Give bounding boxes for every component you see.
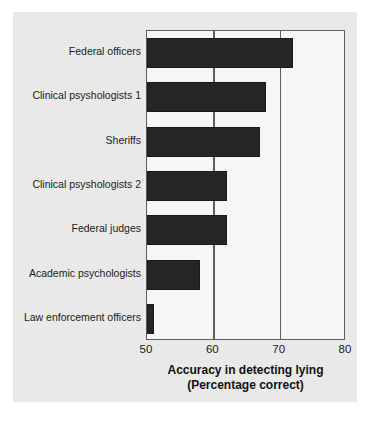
category-axis-labels: Federal officersClinical psyshologists 1… bbox=[13, 30, 141, 340]
bar bbox=[147, 171, 227, 201]
category-label: Federal officers bbox=[13, 46, 141, 57]
plot-area bbox=[146, 30, 345, 340]
bar bbox=[147, 260, 200, 290]
category-label: Clinical psyshologists 2 bbox=[13, 179, 141, 190]
category-label: Sheriffs bbox=[13, 135, 141, 146]
bar bbox=[147, 215, 227, 245]
x-tick-label: 60 bbox=[206, 343, 219, 355]
x-tick-label: 50 bbox=[140, 343, 153, 355]
x-axis-title: Accuracy in detecting lying (Percentage … bbox=[146, 363, 345, 393]
x-tick-label: 70 bbox=[272, 343, 285, 355]
bar bbox=[147, 82, 266, 112]
category-label: Academic psychologists bbox=[13, 268, 141, 279]
x-axis-tick-labels: 50607080 bbox=[146, 343, 345, 359]
x-axis-title-line1: Accuracy in detecting lying bbox=[146, 363, 345, 378]
x-tick-label: 80 bbox=[339, 343, 352, 355]
bar bbox=[147, 127, 260, 157]
category-label: Law enforcement officers bbox=[13, 312, 141, 323]
category-label: Clinical psyshologists 1 bbox=[13, 90, 141, 101]
bar bbox=[147, 304, 154, 334]
figure-panel: Federal officersClinical psyshologists 1… bbox=[13, 12, 357, 402]
bar bbox=[147, 38, 293, 68]
x-axis-title-line2: (Percentage correct) bbox=[146, 378, 345, 393]
bar-chart: Federal officersClinical psyshologists 1… bbox=[13, 12, 357, 402]
category-label: Federal judges bbox=[13, 223, 141, 234]
gridline-70 bbox=[280, 31, 282, 339]
